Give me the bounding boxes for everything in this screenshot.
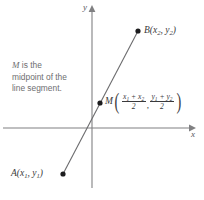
y-num-second-sub: 2 [170,96,173,102]
x-num-second-sub: 2 [141,96,144,102]
x-num-first-sub: 1 [126,96,129,102]
midpoint-figure: y x M is the midpoint of the line segmen… [0,0,204,200]
y-axis-arrowhead [89,5,96,12]
caption-line-3: line segment. [12,83,62,93]
y-num-plus: + [159,92,164,101]
y-axis-label: y [83,3,87,12]
x-num-plus: + [131,92,136,101]
point-b-y-sub: 2 [169,29,172,36]
x-fraction-numerator: x1 + x2 [122,93,146,101]
caption-line-2: midpoint of the [12,72,67,82]
x-midpoint-fraction: x1 + x2 2 [122,93,146,111]
point-a-x-sub: 1 [24,172,27,179]
midpoint-formula: M ( x1 + x2 2 , y1 + y2 2 ) [105,93,182,111]
y-fraction-denominator: 2 [160,102,164,110]
formula-comma: , [147,101,149,111]
point-a-label: A(x1, y1) [11,169,43,179]
point-a-dot [60,171,65,176]
y-num-first-sub: 1 [155,96,158,102]
point-a-close-paren: ) [40,168,43,178]
caption-line-1: is the [20,60,42,70]
point-b-label: B(x2, y2) [144,26,176,36]
point-a-y-sub: 1 [36,172,39,179]
point-b-close-paren: ) [173,25,176,35]
x-fraction-denominator: 2 [132,102,136,110]
caption-emphasis-m: M [12,60,20,70]
caption-text: M is the midpoint of the line segment. [12,60,90,95]
x-axis-label: x [191,130,195,139]
point-b-dot [135,28,140,33]
midpoint-symbol: M [105,97,113,107]
point-m-dot [97,100,102,105]
point-b-x-sub: 2 [157,29,160,36]
y-fraction-numerator: y1 + y2 [150,93,174,101]
y-midpoint-fraction: y1 + y2 2 [150,93,174,111]
